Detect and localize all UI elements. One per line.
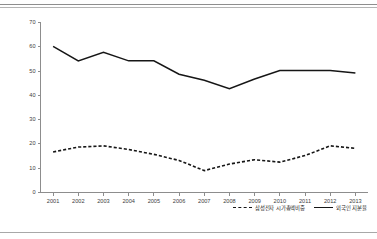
svg-text:0: 0 [32,189,35,195]
svg-text:2007: 2007 [198,198,210,204]
legend-label-samsung-marketcap-share: 삼성전자 시가총액비중 [255,204,305,212]
page-top-rule-secondary [0,7,377,8]
svg-text:20: 20 [29,140,35,146]
chart-page: 010203040506070 200120022003200420052006… [0,0,377,239]
svg-text:2001: 2001 [47,198,59,204]
page-bottom-rule [0,232,377,233]
page-top-rule-primary [0,4,377,5]
chart-canvas: 010203040506070 200120022003200420052006… [0,10,377,230]
legend-label-foreign-ownership: 외국인 지분율 [336,204,367,212]
series-group [53,46,355,170]
series-line-samsung-marketcap-share [53,146,355,171]
y-tick-labels: 010203040506070 [29,19,35,195]
svg-text:70: 70 [29,19,35,25]
svg-text:2002: 2002 [72,198,84,204]
series-line-foreign-ownership [53,46,355,89]
dashed-line-swatch-icon [233,205,252,211]
solid-line-swatch-icon [314,205,333,211]
svg-text:40: 40 [29,92,35,98]
legend-item-samsung-marketcap-share: 삼성전자 시가총액비중 [233,204,305,212]
svg-text:50: 50 [29,68,35,74]
chart-legend: 삼성전자 시가총액비중 외국인 지분율 [233,204,367,212]
svg-text:2004: 2004 [122,198,134,204]
svg-text:2003: 2003 [97,198,109,204]
legend-item-foreign-ownership: 외국인 지분율 [314,204,367,212]
x-tick-marks [53,193,355,197]
y-axis [38,22,41,193]
line-chart: 010203040506070 200120022003200420052006… [0,10,377,230]
x-axis [41,193,369,197]
svg-text:2006: 2006 [173,198,185,204]
svg-text:10: 10 [29,165,35,171]
svg-text:2005: 2005 [148,198,160,204]
svg-text:30: 30 [29,116,35,122]
svg-text:60: 60 [29,43,35,49]
